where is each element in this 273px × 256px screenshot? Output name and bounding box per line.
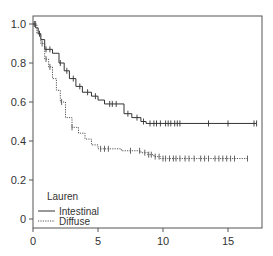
x-axis: 051015: [30, 228, 234, 247]
y-tick-label: 0.8: [11, 57, 26, 69]
curve-diffuse: [33, 24, 248, 159]
y-tick-label: 0: [20, 213, 26, 225]
legend-label-diffuse: Diffuse: [59, 216, 90, 227]
y-tick-label: 0.2: [11, 174, 26, 186]
legend: Lauren Intestinal Diffuse: [38, 191, 99, 227]
legend-title: Lauren: [47, 191, 78, 202]
y-tick-label: 1.0: [11, 18, 26, 30]
survival-curves: [33, 21, 257, 162]
y-tick-label: 0.6: [11, 96, 26, 108]
x-tick-label: 10: [157, 235, 169, 247]
x-tick-label: 15: [222, 235, 234, 247]
y-tick-label: 0.4: [11, 135, 26, 147]
x-tick-label: 5: [95, 235, 101, 247]
y-axis: 00.20.40.60.81.0: [11, 18, 33, 225]
km-survival-chart: 00.20.40.60.81.0 051015 Lauren Intestina…: [0, 0, 273, 256]
x-tick-label: 0: [30, 235, 36, 247]
